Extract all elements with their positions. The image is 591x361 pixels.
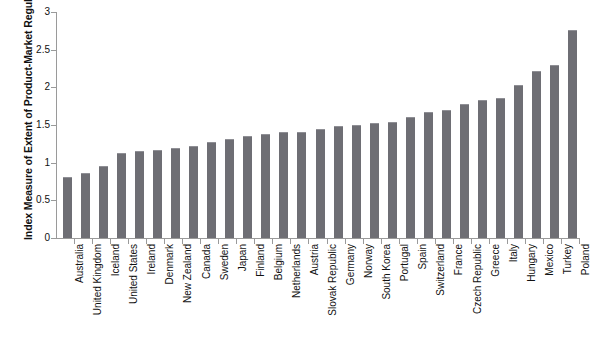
x-tick-label: Belgium [270, 244, 280, 280]
x-tick-label: Poland [577, 244, 587, 275]
bar [261, 134, 270, 238]
x-tick-label: United Kingdom [89, 244, 99, 315]
x-tick-label-text: Iceland [111, 244, 121, 276]
bar [478, 100, 487, 238]
bar [225, 139, 234, 238]
bar [297, 132, 306, 238]
bar [207, 142, 216, 238]
y-tick-label: 1 [22, 158, 50, 168]
y-tick-label: 1.5 [22, 120, 50, 130]
x-tick-label: Mexico [541, 244, 551, 276]
y-tick-label: 3 [22, 7, 50, 17]
x-tick-label-text: Hungary [527, 244, 537, 282]
x-tick-label: Sweden [216, 244, 226, 280]
x-tick-label-text: United States [129, 244, 139, 304]
x-tick-label-text: Turkey [563, 244, 573, 274]
x-tick-label: Canada [198, 244, 208, 279]
x-tick-label: Hungary [523, 244, 533, 282]
plot-area: 00.511.522.53 [56, 12, 580, 239]
x-tick-label-text: Belgium [274, 244, 284, 280]
x-tick-label: Italy [505, 244, 515, 262]
bar [334, 126, 343, 238]
x-tick-label: Greece [487, 244, 497, 277]
bar-series [56, 12, 580, 239]
x-tick-label: Switzerland [432, 244, 442, 296]
x-tick-label-text: Mexico [545, 244, 555, 276]
x-tick-label-text: Norway [364, 244, 374, 278]
x-tick-label-text: Sweden [220, 244, 230, 280]
x-tick-label-text: Italy [509, 244, 519, 262]
x-tick-label: Iceland [107, 244, 117, 276]
bar [279, 132, 288, 238]
x-tick-label: Australia [71, 244, 81, 283]
x-tick-label-text: Japan [238, 244, 248, 271]
bar [370, 123, 379, 238]
x-tick-label-text: Austria [310, 244, 320, 275]
bar [532, 71, 541, 238]
bar [424, 112, 433, 238]
bar [63, 177, 72, 238]
y-tick-label: 2.5 [22, 45, 50, 55]
x-tick-label-text: Finland [256, 244, 266, 277]
bar [496, 98, 505, 238]
x-tick-label-text: Spain [418, 244, 428, 270]
x-tick-label-text: Ireland [147, 244, 157, 275]
x-tick-label: Spain [414, 244, 424, 270]
bar [99, 166, 108, 238]
y-tick-label: 2 [22, 82, 50, 92]
y-tick-label: 0.5 [22, 195, 50, 205]
y-tick-label: 0 [22, 233, 50, 243]
bar [514, 85, 523, 238]
x-tick-label: Denmark [161, 244, 171, 285]
bar [243, 136, 252, 238]
x-tick-label: Ireland [143, 244, 153, 275]
bar [568, 30, 577, 238]
x-tick-label: France [450, 244, 460, 275]
x-tick-label-text: Switzerland [436, 244, 446, 296]
bar [352, 125, 361, 238]
bar [153, 150, 162, 238]
bar [135, 151, 144, 238]
x-tick-label: Czech Republic [469, 244, 479, 314]
bar [406, 117, 415, 238]
x-tick-label-text: Slovak Republic [328, 244, 338, 316]
x-tick-label: Portugal [396, 244, 406, 281]
x-tick-label: Norway [360, 244, 370, 278]
x-tick-label: Finland [252, 244, 262, 277]
bar [81, 173, 90, 238]
bar [442, 110, 451, 238]
x-tick-label-text: Denmark [165, 244, 175, 285]
x-tick-label-text: Germany [346, 244, 356, 285]
x-tick-label-text: Greece [491, 244, 501, 277]
x-tick-label: United States [125, 244, 135, 304]
x-tick-label-text: New Zealand [183, 244, 193, 303]
x-tick-label-text: France [454, 244, 464, 275]
bar [316, 129, 325, 238]
x-tick-label-text: Canada [202, 244, 212, 279]
x-tick-label-text: Czech Republic [473, 244, 483, 314]
bar [189, 146, 198, 238]
x-tick-label-text: South Korea [382, 244, 392, 300]
x-tick-label: Slovak Republic [324, 244, 334, 316]
bar [388, 122, 397, 238]
x-axis-labels: AustraliaUnited KingdomIcelandUnited Sta… [56, 244, 580, 354]
bar [171, 148, 180, 238]
bar [550, 65, 559, 238]
x-tick-label: Turkey [559, 244, 569, 274]
x-tick-label: Netherlands [288, 244, 298, 298]
x-tick-label: Austria [306, 244, 316, 275]
bar [460, 104, 469, 238]
x-tick-label-text: Netherlands [292, 244, 302, 298]
x-tick-label-text: Poland [581, 244, 591, 275]
x-tick-label-text: United Kingdom [93, 244, 103, 315]
bar [117, 153, 126, 238]
x-tick-label-text: Australia [75, 244, 85, 283]
x-tick-label: Japan [234, 244, 244, 271]
x-tick-label-text: Portugal [400, 244, 410, 281]
x-tick-label: Germany [342, 244, 352, 285]
x-tick-label: New Zealand [179, 244, 189, 303]
x-tick-label: South Korea [378, 244, 388, 300]
